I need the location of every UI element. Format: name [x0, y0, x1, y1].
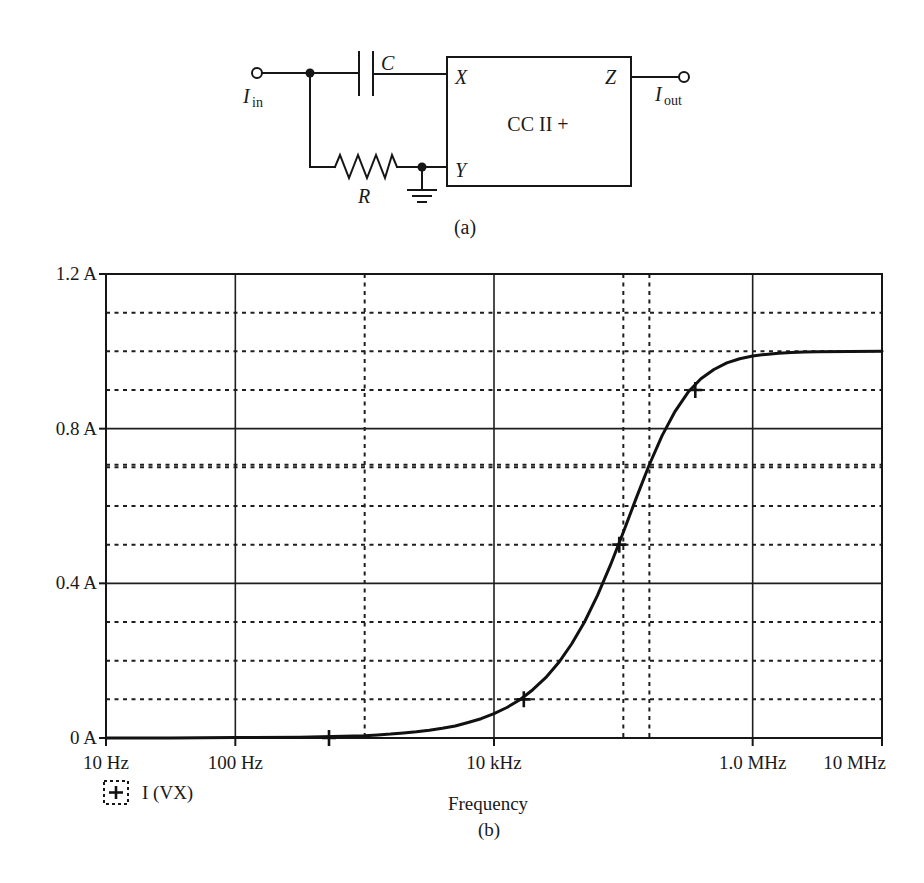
- ccii-block-label: CC II +: [507, 113, 568, 135]
- output-current-symbol: I: [654, 83, 663, 105]
- frequency-response-chart: 0 A0.4 A0.8 A1.2 A10 Hz100 Hz10 kHz1.0 M…: [56, 263, 886, 773]
- capacitor-label: C: [381, 52, 395, 74]
- x-axis-title: Frequency: [448, 793, 529, 814]
- input-terminal: [252, 68, 262, 78]
- circuit-schematic: C R X Y Z CC II + I in I out (a): [242, 52, 689, 239]
- x-tick-label: 10 Hz: [83, 752, 129, 773]
- port-z-label: Z: [605, 66, 617, 88]
- y-tick-label: 0.8 A: [56, 418, 97, 439]
- resistor-symbol: [335, 155, 397, 178]
- output-terminal: [679, 72, 689, 82]
- resistor-branch-wire: [310, 73, 335, 167]
- series-marker-plus: [688, 382, 702, 398]
- plot-caption: (b): [478, 819, 500, 841]
- x-tick-label: 10 MHz: [823, 752, 886, 773]
- port-x-label: X: [454, 66, 468, 88]
- x-tick-label: 1.0 MHz: [719, 752, 787, 773]
- y-tick-label: 0.4 A: [56, 572, 97, 593]
- y-tick-label: 1.2 A: [56, 263, 97, 284]
- output-current-subscript: out: [664, 93, 682, 108]
- series-marker-plus: [322, 730, 336, 746]
- resistor-label: R: [357, 185, 370, 207]
- capacitor-symbol: [359, 52, 373, 95]
- circuit-caption: (a): [454, 216, 476, 239]
- y-tick-label: 0 A: [70, 727, 97, 748]
- port-y-label: Y: [455, 159, 468, 181]
- ground-icon: [408, 167, 436, 202]
- legend-series-label: I (VX): [142, 782, 193, 804]
- legend-plus-marker-icon: [109, 786, 123, 799]
- x-tick-label: 10 kHz: [466, 752, 521, 773]
- legend: I (VX): [104, 781, 193, 804]
- figure: C R X Y Z CC II + I in I out (a) 0 A0.4 …: [0, 0, 924, 883]
- input-current-symbol: I: [242, 85, 251, 107]
- x-tick-label: 100 Hz: [208, 752, 263, 773]
- input-current-subscript: in: [252, 95, 263, 110]
